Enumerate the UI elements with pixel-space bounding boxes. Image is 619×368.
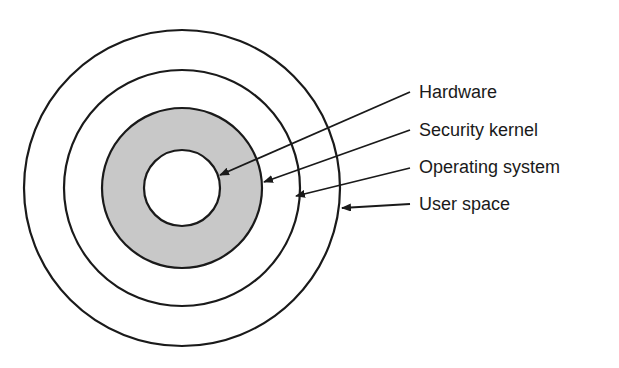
label-hardware: Hardware (419, 83, 497, 101)
user-space-arrow (342, 204, 410, 208)
hardware-core (144, 150, 220, 226)
ring-diagram (0, 0, 619, 368)
label-user-space: User space (419, 195, 510, 213)
label-operating-system: Operating system (419, 158, 560, 176)
label-security-kernel: Security kernel (419, 121, 538, 139)
